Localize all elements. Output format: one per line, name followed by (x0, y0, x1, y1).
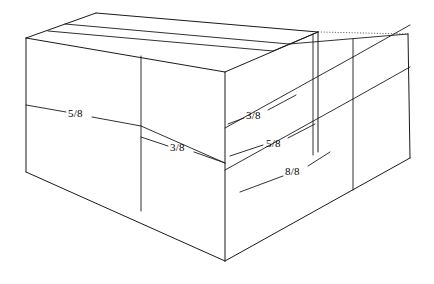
dimension-label-right-face-middle: 5/8 (266, 138, 281, 149)
dimension-label-right-face-bottom: 8/8 (285, 166, 300, 177)
dimension-label-right-face-top: 3/8 (246, 110, 261, 121)
box-drawing-svg (0, 0, 434, 284)
box-diagram-figure: 5/8 3/8 3/8 5/8 8/8 (0, 0, 434, 284)
dimension-label-left-face-lower: 3/8 (170, 142, 185, 153)
dimension-label-left-face-upper: 5/8 (68, 108, 83, 119)
